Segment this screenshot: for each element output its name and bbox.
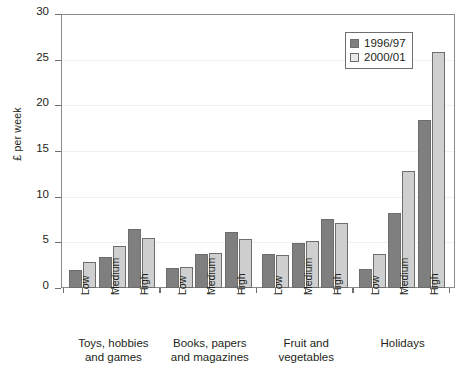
x-tick-mark — [256, 288, 257, 293]
y-tick-label: 0 — [43, 280, 49, 292]
bar — [418, 120, 431, 288]
bar — [432, 52, 445, 288]
legend-swatch-icon — [350, 39, 359, 48]
legend-item: 1996/97 — [350, 36, 406, 50]
x-tick-mark — [334, 288, 335, 293]
x-tick-mark — [401, 288, 402, 293]
y-tick-label: 25 — [36, 52, 49, 64]
x-tick-mark — [353, 288, 354, 293]
x-group-label-line: vegetables — [244, 350, 368, 364]
x-tick-mark — [112, 288, 113, 293]
legend-label: 2000/01 — [364, 50, 406, 64]
y-tick-label: 10 — [36, 189, 49, 201]
y-tick-label: 30 — [36, 6, 49, 18]
legend: 1996/97 2000/01 — [345, 32, 413, 69]
legend-swatch-icon — [350, 53, 359, 62]
x-tick-mark — [160, 288, 161, 293]
y-tick-label: 15 — [36, 143, 49, 155]
legend-item: 2000/01 — [350, 50, 406, 64]
x-tick-mark — [305, 288, 306, 293]
x-tick-mark — [179, 288, 180, 293]
x-tick-mark — [63, 288, 64, 293]
x-tick-mark — [449, 288, 450, 293]
x-group-label: Holidays — [341, 336, 465, 350]
x-tick-mark — [275, 288, 276, 293]
y-tick-label: 5 — [43, 234, 49, 246]
x-tick-mark — [372, 288, 373, 293]
x-group-label-line: Holidays — [341, 336, 465, 350]
x-tick-mark — [208, 288, 209, 293]
y-axis-title: £ per week — [11, 79, 23, 189]
y-tick-label: 20 — [36, 97, 49, 109]
x-tick-mark — [238, 288, 239, 293]
x-tick-mark — [431, 288, 432, 293]
x-tick-mark — [141, 288, 142, 293]
legend-label: 1996/97 — [364, 36, 406, 50]
x-tick-mark — [82, 288, 83, 293]
bar-chart: £ per week 051015202530 LowMediumHighToy… — [0, 0, 466, 373]
y-tick-mark — [55, 288, 61, 289]
